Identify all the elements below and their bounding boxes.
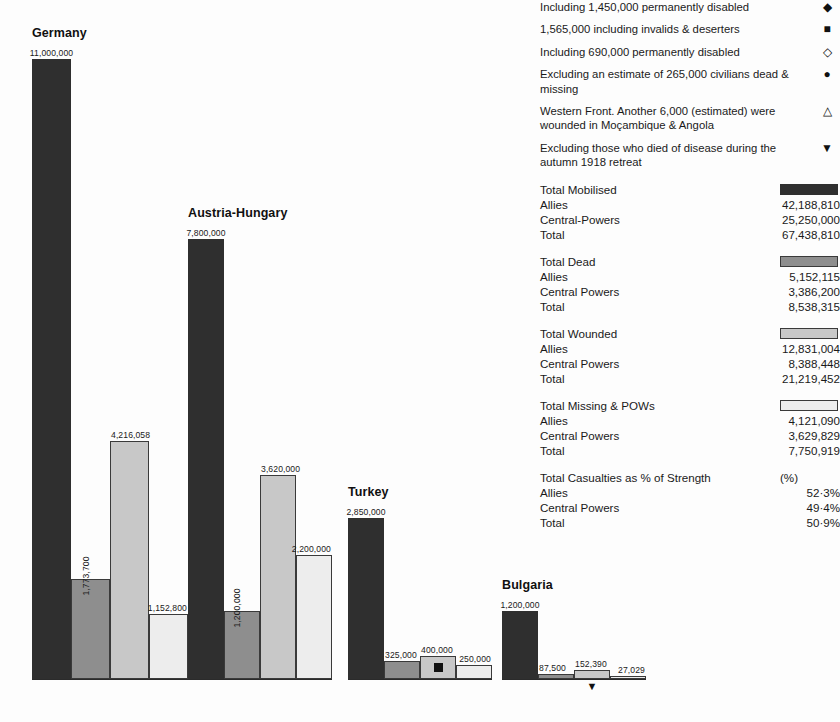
bar-total-dead[interactable]: 1,773,700 xyxy=(71,579,110,679)
footnote-row: Western Front. Another 6,000 (estimated)… xyxy=(540,104,840,133)
footnote-row: Excluding those who died of disease duri… xyxy=(540,141,840,170)
bar-total-mobilised[interactable]: 11,000,000 xyxy=(32,59,71,679)
stat-row: Central Powers8,388,448 xyxy=(540,356,840,371)
bar-total-dead[interactable]: 1,200,000 xyxy=(224,611,260,679)
filled-square-icon: ■ xyxy=(816,22,838,36)
bar-value-label: 1,200,000 xyxy=(232,589,242,628)
bar-value-label: 3,620,000 xyxy=(261,464,300,474)
infographic-page: 11,000,0001,773,7004,216,0581,152,800Ger… xyxy=(0,0,840,722)
footnote-row: Including 1,450,000 permanently disabled… xyxy=(540,0,840,14)
stat-row: Total7,750,919 xyxy=(540,443,840,458)
bar-chart: 11,000,0001,773,7004,216,0581,152,800Ger… xyxy=(0,0,520,722)
stat-row-value: 67,438,810 xyxy=(750,227,840,242)
country-title: Germany xyxy=(32,26,87,40)
bar-total-mobilised[interactable]: 2,850,000 xyxy=(348,518,384,679)
stat-row-value: 3,386,200 xyxy=(750,284,840,299)
legend-swatch xyxy=(780,256,838,267)
bar-value-label: 1,200,000 xyxy=(500,600,539,610)
legend-swatch xyxy=(780,400,838,411)
stat-row-value: 50·9% xyxy=(750,515,840,530)
stat-row-label: Allies xyxy=(540,485,568,500)
bar-cell: 1,152,800 xyxy=(149,59,188,679)
stat-row-label: Allies xyxy=(540,197,568,212)
stat-row: Central-Powers25,250,000 xyxy=(540,212,840,227)
footnote-row: Excluding an estimate of 265,000 civilia… xyxy=(540,67,840,96)
bar-cell: 2,850,000 xyxy=(348,518,384,679)
stat-row: Total50·9% xyxy=(540,515,840,530)
stat-row: Central Powers3,629,829 xyxy=(540,428,840,443)
stat-block-title: Total Wounded xyxy=(540,326,617,341)
bar-total-mobilised[interactable]: 1,200,000 xyxy=(502,611,538,679)
bar-cell: 7,800,000 xyxy=(188,239,224,679)
bar-cell: 1,200,000 xyxy=(224,239,260,679)
stat-row-label: Total xyxy=(540,299,565,314)
stat-row-label: Total xyxy=(540,227,565,242)
stat-block: Total MobilisedAllies42,188,810Central-P… xyxy=(540,182,840,242)
bars-row: 7,800,0001,200,0003,620,0002,200,000 xyxy=(188,239,332,680)
footnote-text: 1,565,000 including invalids & deserters xyxy=(540,22,810,36)
filled-square-icon xyxy=(434,663,443,672)
stat-block-header: Total Wounded xyxy=(540,326,840,341)
bar-cell: 250,000 xyxy=(456,518,492,679)
stat-block: Total DeadAllies5,152,115Central Powers3… xyxy=(540,254,840,314)
stat-block-title: Total Dead xyxy=(540,254,595,269)
filled-circle-icon: ● xyxy=(816,67,838,81)
stat-row-label: Allies xyxy=(540,269,568,284)
bar-cell: 2,200,000 xyxy=(296,239,332,679)
stat-row: Allies4,121,090 xyxy=(540,413,840,428)
stat-row: Central Powers49·4% xyxy=(540,500,840,515)
bar-total-dead[interactable]: 325,000 xyxy=(384,661,420,679)
bar-total-missing-pows[interactable]: 2,200,000 xyxy=(296,555,332,679)
bar-value-label: 11,000,000 xyxy=(30,48,73,58)
country-title: Austria-Hungary xyxy=(188,206,287,220)
bar-value-label: 1,773,700 xyxy=(81,556,91,595)
bar-cell: 1,200,000 xyxy=(502,611,538,679)
bar-cell: 400,000 xyxy=(420,518,456,679)
bar-value-label: 400,000 xyxy=(421,645,453,655)
bar-cell: 3,620,000 xyxy=(260,239,296,679)
bar-value-label: 325,000 xyxy=(385,650,417,660)
bar-cell: 4,216,058 xyxy=(110,59,149,679)
stat-row-value: 25,250,000 xyxy=(750,212,840,227)
stat-row-label: Central Powers xyxy=(540,500,619,515)
stat-row: Allies52·3% xyxy=(540,485,840,500)
footnote-row: 1,565,000 including invalids & deserters… xyxy=(540,22,840,36)
footnote-text: Western Front. Another 6,000 (estimated)… xyxy=(540,104,810,133)
bar-total-wounded[interactable]: 400,000 xyxy=(420,656,456,679)
country-group-germany: 11,000,0001,773,7004,216,0581,152,800Ger… xyxy=(32,59,188,680)
bar-total-missing-pows[interactable]: 1,152,800 xyxy=(149,614,188,679)
bar-total-wounded[interactable]: 4,216,058 xyxy=(110,441,149,679)
bars-row: 11,000,0001,773,7004,216,0581,152,800 xyxy=(32,59,188,680)
stat-block-title: Total Casualties as % of Strength xyxy=(540,470,711,485)
stat-row-value: 5,152,115 xyxy=(750,269,840,284)
stat-block-header: Total Missing & POWs xyxy=(540,398,840,413)
footnote-row: Including 690,000 permanently disabled◇ xyxy=(540,45,840,59)
country-group-turkey: 2,850,000325,000400,000250,000Turkey xyxy=(348,518,492,680)
bar-cell: 11,000,000 xyxy=(32,59,71,679)
legend-and-notes-panel: Including 1,450,000 permanently disabled… xyxy=(540,0,840,722)
filled-triangle-down-icon: ▼ xyxy=(816,141,838,155)
stat-row-value: 12,831,004 xyxy=(750,341,840,356)
stat-block-title: Total Mobilised xyxy=(540,182,617,197)
footnote-text: Including 1,450,000 permanently disabled xyxy=(540,0,810,14)
bar-value-label: 1,152,800 xyxy=(148,603,187,613)
stat-row: Allies42,188,810 xyxy=(540,197,840,212)
bar-value-label: 4,216,058 xyxy=(111,430,150,440)
bar-total-missing-pows[interactable]: 250,000 xyxy=(456,665,492,679)
stat-unit-label: (%) xyxy=(780,470,840,485)
stat-row: Total21,219,452 xyxy=(540,371,840,386)
bar-total-wounded[interactable]: 3,620,000 xyxy=(260,475,296,679)
stat-block-header: Total Mobilised xyxy=(540,182,840,197)
bar-total-mobilised[interactable]: 7,800,000 xyxy=(188,239,224,679)
bar-value-label: 7,800,000 xyxy=(186,228,225,238)
bar-value-label: 250,000 xyxy=(459,654,491,664)
stat-row-value: 49·4% xyxy=(750,500,840,515)
stat-block-header: Total Dead xyxy=(540,254,840,269)
stat-row-label: Total xyxy=(540,515,565,530)
stat-row-label: Allies xyxy=(540,341,568,356)
stat-row-value: 7,750,919 xyxy=(750,443,840,458)
stat-row: Total8,538,315 xyxy=(540,299,840,314)
stat-row: Allies5,152,115 xyxy=(540,269,840,284)
stat-row: Allies12,831,004 xyxy=(540,341,840,356)
stat-row-value: 42,188,810 xyxy=(750,197,840,212)
